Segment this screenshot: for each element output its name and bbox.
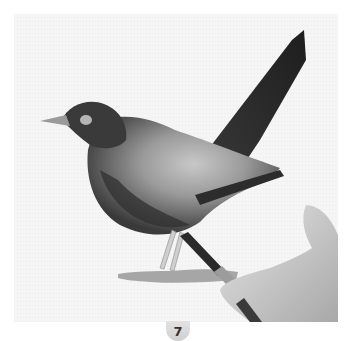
blackbird-painting-illustration — [14, 14, 338, 322]
step-number-badge: 7 — [166, 321, 190, 341]
painting-photo — [14, 14, 338, 322]
